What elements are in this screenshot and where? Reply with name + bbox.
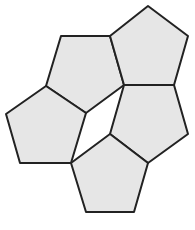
pentagon-group xyxy=(6,6,188,212)
pentagon-top-right xyxy=(110,6,188,85)
pentagon-tiling-diagram xyxy=(0,0,195,230)
